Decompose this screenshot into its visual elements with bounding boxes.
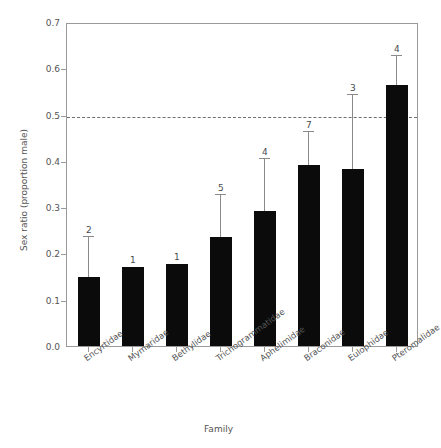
sample-size-label: 7	[298, 120, 321, 130]
bar-group: 5	[210, 24, 233, 346]
bar-group: 1	[122, 24, 145, 346]
error-bar-line	[308, 132, 309, 165]
x-axis-title: Family	[0, 424, 437, 434]
y-axis-tick-label: 0.5	[0, 111, 60, 121]
bar	[342, 169, 365, 346]
sample-size-label: 1	[166, 252, 189, 262]
bar	[122, 267, 145, 346]
bar-group: 1	[166, 24, 189, 346]
bar	[298, 165, 321, 346]
error-bar-cap	[259, 158, 270, 159]
bar-group: 4	[254, 24, 277, 346]
sample-size-label: 4	[386, 44, 409, 54]
error-bar-line	[352, 95, 353, 169]
error-bar-cap	[215, 194, 226, 195]
y-axis-tick-label: 0.2	[0, 249, 60, 259]
sample-size-label: 4	[254, 147, 277, 157]
bar	[210, 237, 233, 346]
y-axis-tick-label: 0.0	[0, 342, 60, 352]
bar	[78, 277, 101, 346]
bar-group: 3	[342, 24, 365, 346]
error-bar-cap	[391, 55, 402, 56]
y-axis-tick-label: 0.6	[0, 64, 60, 74]
reference-line-half	[67, 117, 417, 118]
y-axis-tick-label: 0.3	[0, 203, 60, 213]
y-axis-tick-label: 0.4	[0, 157, 60, 167]
y-axis-tick-label: 0.7	[0, 18, 60, 28]
error-bar-cap	[347, 94, 358, 95]
error-bar-line	[220, 195, 221, 237]
plot-area: 21154734	[66, 23, 418, 347]
error-bar-cap	[83, 236, 94, 237]
bar-group: 7	[298, 24, 321, 346]
sample-size-label: 2	[78, 225, 101, 235]
error-bar-cap	[303, 131, 314, 132]
sample-size-label: 3	[342, 83, 365, 93]
error-bar-line	[396, 56, 397, 84]
sample-size-label: 5	[210, 183, 233, 193]
bar-group: 2	[78, 24, 101, 346]
sample-size-label: 1	[122, 255, 145, 265]
y-axis-tick-label: 0.1	[0, 296, 60, 306]
bar	[386, 85, 409, 347]
error-bar-line	[264, 159, 265, 211]
bar-group: 4	[386, 24, 409, 346]
error-bar-line	[88, 237, 89, 277]
